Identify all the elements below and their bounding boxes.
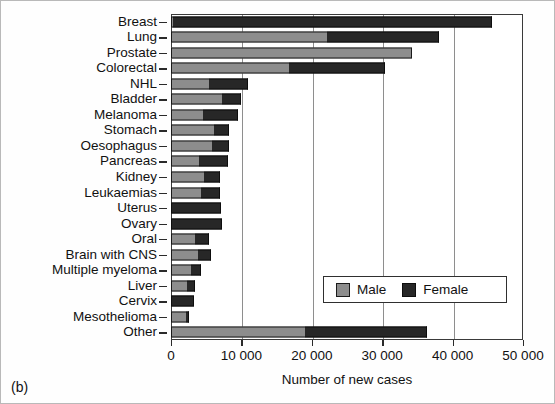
male-swatch [336,283,350,297]
bar-row [171,107,523,123]
bar-row [171,154,523,170]
bar-segment-male [171,32,327,43]
category-tick [159,37,167,38]
bar-segment-male [171,265,191,276]
stacked-bar [171,94,241,105]
category-label: Pancreas [100,154,157,168]
bar-row [171,247,523,263]
bar-segment-female [201,187,220,198]
bar-segment-male [171,125,214,136]
bar-row [171,216,523,232]
category-tick [159,115,167,116]
category-label: Breast [118,15,157,29]
bar-segment-female [214,125,229,136]
bar-segment-female [186,311,189,322]
x-tick-label: 50 000 [502,348,543,363]
legend-label-male: Male [357,282,386,297]
bar-segment-male [171,156,199,167]
stacked-bar [171,16,492,27]
category-label: Ovary [121,217,157,231]
x-tick-label: 40 000 [432,348,473,363]
x-tick [523,340,524,346]
x-tick-label: 0 [167,348,175,363]
category-label: Mesothelioma [73,310,157,324]
bar-row [171,76,523,92]
bar-segment-female [222,94,240,105]
bar-row [171,185,523,201]
category-tick [159,130,167,131]
bar-segment-female [195,234,209,245]
category-tick [159,193,167,194]
bar-row [171,92,523,108]
bar-row [171,123,523,139]
stacked-bar [171,78,248,89]
category-tick [159,255,167,256]
bar-row [171,138,523,154]
category-tick [159,53,167,54]
bar-row [171,200,523,216]
category-label: Stomach [104,123,157,137]
bar-segment-male [171,94,222,105]
category-label: Uterus [117,201,157,215]
stacked-bar [171,203,221,214]
figure-caption: (b) [11,379,28,395]
bar-segment-female [171,203,221,214]
bar-segment-female [305,327,427,338]
bar-segment-female [191,265,201,276]
category-label: Brain with CNS [65,248,157,262]
bar-segment-female [204,171,220,182]
bar-segment-male [171,171,204,182]
bar-segment-male [171,63,289,74]
category-tick [159,22,167,23]
x-tick [171,340,172,346]
stacked-bar [171,249,211,260]
stacked-bar [171,218,222,229]
legend-item-female: Female [402,282,468,297]
x-tick-label: 20 000 [291,348,332,363]
category-label: Lung [127,30,157,44]
stacked-bar [171,327,427,338]
x-tick [453,340,454,346]
category-tick [159,99,167,100]
x-tick-label: 10 000 [221,348,262,363]
bar-row [171,169,523,185]
category-label: Other [123,325,157,339]
bar-segment-female [327,32,439,43]
bar-segment-female [212,140,229,151]
bar-segment-female [173,16,492,27]
stacked-bar [171,140,229,151]
category-tick [159,68,167,69]
category-tick [159,270,167,271]
category-tick [159,301,167,302]
bar-segment-male [171,187,201,198]
category-label: Multiple myeloma [52,263,157,277]
category-tick [159,161,167,162]
bar-segment-male [171,109,203,120]
stacked-bar [171,47,412,58]
category-label: Prostate [107,46,157,60]
bar-row [171,45,523,61]
bar-segment-female [289,63,385,74]
bar-segment-female [209,78,248,89]
category-label: Colorectal [96,61,157,75]
category-label: Kidney [116,170,157,184]
stacked-bar [171,265,201,276]
category-label: Oesophagus [80,139,157,153]
legend: Male Female [323,276,507,303]
category-tick [159,286,167,287]
legend-label-female: Female [423,282,468,297]
stacked-bar [171,125,229,136]
category-tick [159,177,167,178]
bar-segment-male [171,234,195,245]
category-label: NHL [130,77,157,91]
bar-segment-female [199,156,228,167]
bar-row [171,231,523,247]
bar-segment-female [171,296,194,307]
bar-segment-female [187,280,195,291]
bar-segment-female [203,109,238,120]
category-tick [159,239,167,240]
category-tick [159,317,167,318]
stacked-bar [171,296,194,307]
figure-panel: BreastLungProstateColorectalNHLBladderMe… [0,0,555,404]
stacked-bar [171,156,228,167]
